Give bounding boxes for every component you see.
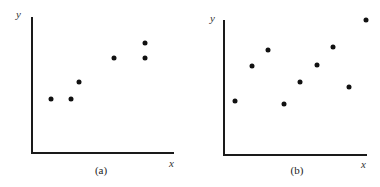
- scatter-panel-b: y x (b): [0, 0, 380, 187]
- data-point: [250, 64, 255, 69]
- data-point: [266, 48, 271, 53]
- panel-caption: (b): [291, 165, 304, 176]
- data-point: [298, 80, 303, 85]
- data-point: [315, 63, 320, 68]
- data-point: [282, 102, 287, 107]
- data-point: [331, 45, 336, 50]
- data-point: [364, 18, 369, 23]
- data-point: [233, 99, 238, 104]
- x-axis-label: x: [361, 159, 366, 170]
- y-axis: [223, 20, 225, 156]
- y-axis-label: y: [210, 13, 215, 24]
- data-point: [347, 85, 352, 90]
- x-axis: [223, 154, 367, 156]
